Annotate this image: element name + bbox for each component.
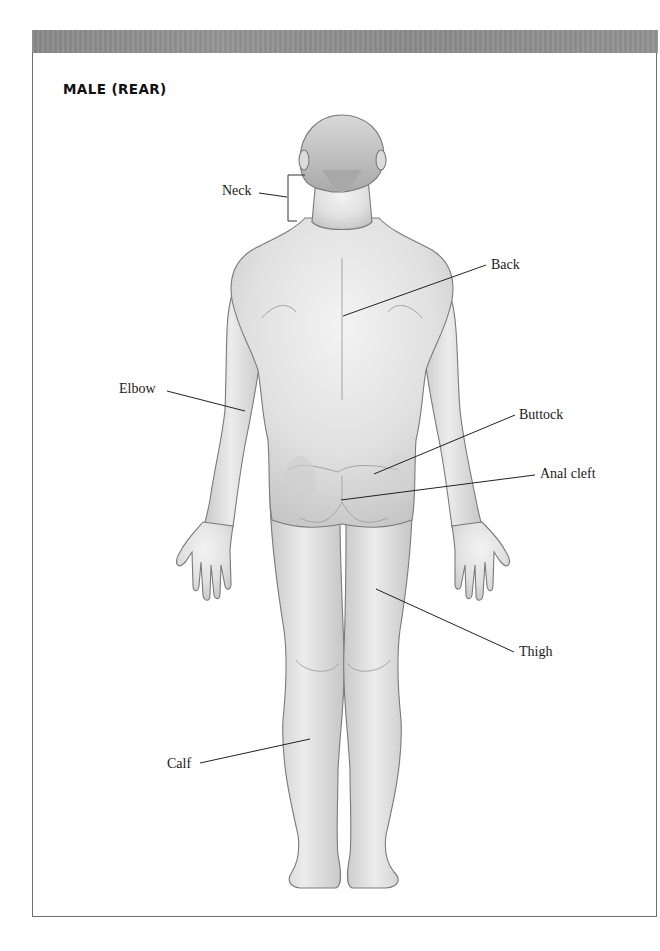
left-ear <box>299 150 309 170</box>
label-calf: Calf <box>167 756 191 772</box>
buttock-shadow-left <box>284 456 316 504</box>
label-elbow: Elbow <box>119 381 156 397</box>
right-leg <box>344 470 413 888</box>
label-neck: Neck <box>222 183 252 199</box>
left-hand <box>176 522 233 600</box>
neck-bracket <box>288 175 305 221</box>
label-back: Back <box>491 257 520 273</box>
left-leg <box>270 470 345 888</box>
right-hand <box>452 522 510 600</box>
label-buttock: Buttock <box>519 407 563 423</box>
body-silhouette <box>176 115 509 888</box>
label-anal-cleft: Anal cleft <box>540 466 596 482</box>
leader-neck <box>259 193 287 197</box>
label-thigh: Thigh <box>519 644 552 660</box>
right-ear <box>376 150 386 170</box>
